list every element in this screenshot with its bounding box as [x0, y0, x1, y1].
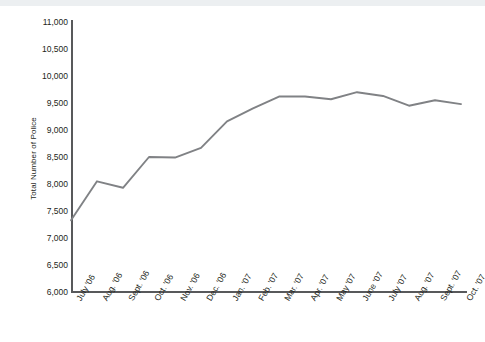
line-chart: Total Number of Police 11,00010,50010,00…	[0, 6, 485, 342]
police-count-line	[71, 92, 461, 220]
chart-page: Total Number of Police 11,00010,50010,00…	[0, 0, 485, 342]
x-axis-tick-labels: July '06Aug. '06Sept. '06Oct. '06Nov. '0…	[0, 294, 485, 342]
plot-area	[0, 6, 485, 306]
